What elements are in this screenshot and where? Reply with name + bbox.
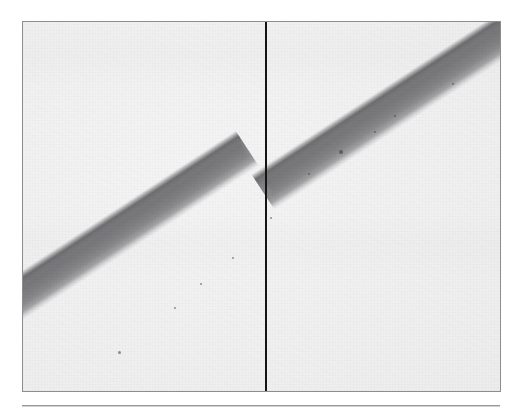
plate-background: [23, 22, 500, 391]
caption-rule: [22, 405, 500, 407]
photographic-plate: [22, 21, 501, 392]
figure-page: [0, 0, 519, 417]
